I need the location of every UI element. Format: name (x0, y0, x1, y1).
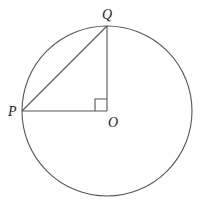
label-o: O (108, 115, 118, 130)
right-angle-marker (95, 99, 107, 111)
label-p: P (7, 104, 17, 119)
geometry-diagram: Q P O (0, 0, 200, 209)
label-q: Q (102, 7, 112, 22)
segment-pq (22, 26, 107, 111)
